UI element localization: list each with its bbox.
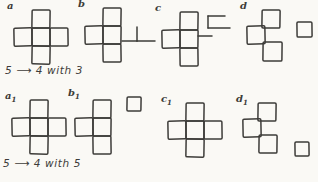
figure-c1: c1 <box>168 103 248 165</box>
figure-b1: b1 <box>75 97 155 159</box>
figure-b1-subscript: 1 <box>75 92 80 101</box>
cross-of-five-squares-drawing <box>168 103 248 165</box>
figure-c1-label: c1 <box>161 94 172 104</box>
figure-a-letter: a <box>7 0 13 11</box>
figure-b1-letter: b <box>68 87 75 98</box>
figure-c-label: c <box>155 3 161 13</box>
figure-d-letter: d <box>240 0 247 11</box>
staircase-squares-with-detached-square-drawing <box>243 103 318 165</box>
figure-d-label: d <box>240 1 247 11</box>
figure-a: a <box>14 10 94 72</box>
figure-d1-letter: d <box>236 93 243 104</box>
figure-b-letter: b <box>78 0 85 9</box>
staircase-squares-with-detached-square-drawing <box>247 10 318 72</box>
cross-with-bracket-matches-drawing <box>162 12 242 74</box>
figure-c1-subscript: 1 <box>167 98 172 107</box>
figure-c: c <box>162 12 242 74</box>
figure-b-label: b <box>78 0 85 9</box>
figure-b1-label: b1 <box>68 88 80 98</box>
figure-a-label: a <box>7 1 13 11</box>
cross-with-loose-matches-drawing <box>85 8 165 70</box>
figure-a1-label: a1 <box>5 91 16 101</box>
puzzle-page: a b c d 5 ⟶ 4 with 3 a1 b1 c1 d1 5 ⟶ 4 w… <box>0 0 318 182</box>
figure-a1-subscript: 1 <box>11 95 16 104</box>
row2-caption: 5 ⟶ 4 with 5 <box>3 157 81 169</box>
figure-d1-label: d1 <box>236 94 248 104</box>
figure-b: b <box>85 8 165 70</box>
figure-d: d <box>247 10 318 72</box>
cross-of-five-squares-drawing <box>14 10 94 72</box>
figure-c-letter: c <box>155 2 161 13</box>
figure-d1-subscript: 1 <box>243 98 248 107</box>
row1-caption: 5 ⟶ 4 with 3 <box>5 64 83 76</box>
figure-d1: d1 <box>243 103 318 165</box>
t-shape-with-detached-square-drawing <box>75 97 155 159</box>
